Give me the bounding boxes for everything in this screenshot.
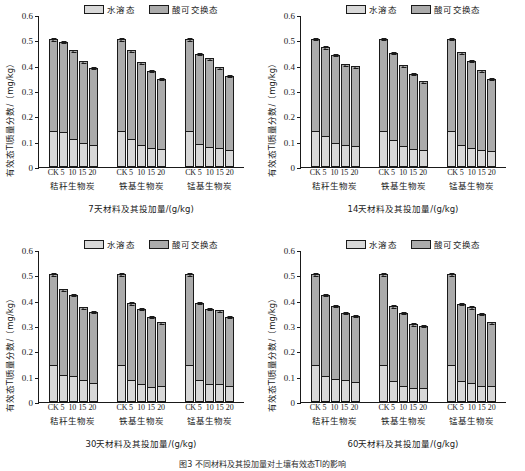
x-axis-group-label: 秸秆生物炭 <box>50 414 95 426</box>
bar-segment-water-soluble <box>351 146 360 167</box>
x-axis-tick-label: 20 <box>88 403 97 412</box>
y-axis-tick-label: 0.2 <box>22 348 33 357</box>
bar-segment-water-soluble <box>379 131 388 167</box>
x-axis-tick-label: 5 <box>320 168 329 177</box>
error-bar <box>189 273 190 277</box>
legend-swatch-acid <box>411 5 431 14</box>
x-axis-group: CK5101520锰基生物炭 <box>437 168 506 191</box>
x-axis-tick-label: CK <box>310 168 319 177</box>
x-axis-tick-label: 15 <box>147 403 156 412</box>
y-axis-tick-label: 0.4 <box>22 62 33 71</box>
bar-group <box>107 16 175 167</box>
error-bar <box>355 315 356 318</box>
legend-swatch-acid <box>411 240 431 249</box>
bar <box>467 61 476 167</box>
bar-segment-water-soluble <box>341 145 350 167</box>
error-bar <box>383 38 384 42</box>
bar <box>195 54 204 167</box>
x-axis-tick-label: 15 <box>409 403 418 412</box>
error-bar <box>73 50 74 53</box>
x-axis-tick-label: 5 <box>320 403 329 412</box>
bar <box>79 307 88 402</box>
x-axis-tick-label: CK <box>379 168 388 177</box>
bar-segment-water-soluble <box>467 148 476 167</box>
bar-groups <box>301 16 506 167</box>
legend-item-acid: 酸可交换态 <box>149 3 219 15</box>
x-axis-tick-label: CK <box>117 403 126 412</box>
error-bar <box>219 310 220 313</box>
x-axis-tick-label: 10 <box>467 403 476 412</box>
legend-item-water: 水溶态 <box>346 238 397 250</box>
error-bar <box>315 273 316 277</box>
bar-segment-water-soluble <box>117 365 126 402</box>
error-bar <box>383 273 384 277</box>
x-axis-tick-label: CK <box>447 403 456 412</box>
error-bar <box>403 312 404 315</box>
x-axis-tick-row: CK5101520 <box>378 168 428 177</box>
x-axis-tick-label: CK <box>185 168 194 177</box>
y-axis-title: 有效态Tl质量分数/（mg/kg） <box>3 278 15 428</box>
bar <box>321 295 330 402</box>
bar <box>127 50 136 167</box>
bar <box>89 312 98 402</box>
bar <box>79 61 88 167</box>
error-bar <box>161 78 162 81</box>
y-axis-tick-label: 0.1 <box>284 373 295 382</box>
y-axis-tick-label: 0.3 <box>22 323 33 332</box>
y-axis-tick-label: 0 <box>291 399 296 408</box>
bar-segment-water-soluble <box>195 380 204 402</box>
y-axis-tick-label: 0.2 <box>284 113 295 122</box>
error-bar <box>141 62 142 65</box>
bar-groups <box>301 251 506 402</box>
y-axis-title: 有效态Tl质量分数/（mg/kg） <box>3 43 15 193</box>
x-axis-tick-label: 20 <box>157 403 166 412</box>
error-bar <box>219 67 220 70</box>
legend-item-water: 水溶态 <box>346 3 397 15</box>
legend-item-water: 水溶态 <box>84 3 135 15</box>
x-axis-tick-row: CK5101520 <box>116 403 166 412</box>
bar <box>447 274 456 402</box>
error-bar <box>491 322 492 325</box>
y-axis-tick-label: 0.1 <box>284 138 295 147</box>
bar <box>89 68 98 167</box>
bar-group <box>301 251 369 402</box>
x-axis-tick-label: 10 <box>205 168 214 177</box>
bar <box>487 79 496 167</box>
x-axis-tick-label: 5 <box>127 403 136 412</box>
x-axis-tick-row: CK5101520 <box>185 403 235 412</box>
chart-legend: 水溶态酸可交换态 <box>84 3 218 15</box>
bar-segment-water-soluble <box>399 386 408 402</box>
bar-segment-water-soluble <box>477 150 486 167</box>
x-axis-group-label: 锰基生物炭 <box>187 414 232 426</box>
legend-label-water: 水溶态 <box>107 3 135 15</box>
y-axis-tick-label: 0.5 <box>284 37 295 46</box>
x-axis-group-label: 铁基生物炭 <box>381 414 426 426</box>
y-axis-tick-label: 0.3 <box>22 88 33 97</box>
bar-segment-water-soluble <box>419 150 428 167</box>
x-axis-tick-label: 5 <box>58 168 67 177</box>
error-bar <box>229 316 230 319</box>
bar-segment-water-soluble <box>49 365 58 402</box>
bar <box>137 309 146 402</box>
error-bar <box>131 302 132 306</box>
bar-group <box>176 16 244 167</box>
x-axis-tick-label: 20 <box>487 168 496 177</box>
bar-segment-water-soluble <box>117 131 126 167</box>
bar-segment-water-soluble <box>409 388 418 402</box>
error-bar <box>491 78 492 81</box>
bar-segment-water-soluble <box>69 139 78 167</box>
x-axis-tick-row: CK5101520 <box>47 168 97 177</box>
error-bar <box>131 50 132 54</box>
legend-label-acid: 酸可交换态 <box>172 3 219 15</box>
bar-groups <box>39 251 244 402</box>
bar <box>321 47 330 167</box>
error-bar <box>423 81 424 85</box>
legend-swatch-water <box>346 5 366 14</box>
x-axis-tick-label: 15 <box>477 168 486 177</box>
bar <box>399 65 408 167</box>
x-axis-group: CK5101520秸秆生物炭 <box>38 168 107 191</box>
bar-segment-water-soluble <box>225 386 234 402</box>
error-bar <box>63 41 64 44</box>
error-bar <box>393 305 394 309</box>
x-axis-tick-label: 15 <box>78 168 87 177</box>
